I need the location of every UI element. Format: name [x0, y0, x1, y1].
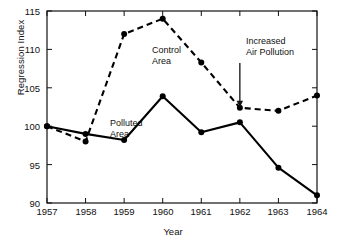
data-point-control-area-1961: [198, 59, 204, 65]
chart-container: Regression Index Year 115 110 105 100 95…: [0, 0, 346, 240]
plot-area: [0, 0, 346, 240]
data-series-group: [44, 16, 320, 199]
data-point-polluted-area-1961: [198, 129, 204, 135]
data-point-control-area-1964: [314, 92, 320, 98]
data-point-polluted-area-1957: [44, 123, 50, 129]
data-point-polluted-area-1960: [160, 93, 166, 99]
data-point-polluted-area-1963: [275, 165, 281, 171]
data-point-polluted-area-1962: [237, 119, 243, 125]
data-point-polluted-area-1964: [314, 192, 320, 198]
data-point-polluted-area-1958: [83, 131, 89, 137]
series-line-control-area: [47, 19, 317, 142]
annotation-arrow-group: [237, 63, 243, 107]
data-point-control-area-1958: [83, 139, 89, 145]
data-point-polluted-area-1959: [121, 137, 127, 143]
data-point-control-area-1963: [275, 108, 281, 114]
data-point-control-area-1959: [121, 31, 127, 37]
data-point-control-area-1960: [160, 16, 166, 22]
